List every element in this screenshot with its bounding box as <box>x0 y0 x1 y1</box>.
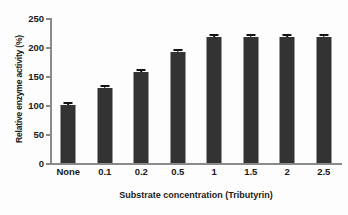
y-tick-mark <box>46 163 50 165</box>
bar <box>170 52 185 163</box>
y-tick-label: 0 <box>18 158 44 169</box>
bar <box>207 37 222 163</box>
bar-group <box>123 18 160 163</box>
error-bar-whisker <box>250 36 252 37</box>
error-bar-cap <box>319 34 328 36</box>
x-axis-title: Substrate concentration (Tributyrin) <box>50 190 342 200</box>
x-tick-label: 0.1 <box>98 166 111 177</box>
y-axis-tick-labels: 050100150200250 <box>18 12 44 169</box>
error-bar-cap <box>210 34 219 36</box>
error-bar-cap <box>64 102 73 104</box>
error-bar-cap <box>137 69 146 71</box>
y-tick-label: 150 <box>18 71 44 82</box>
y-tick-mark <box>46 76 50 78</box>
error-bar-whisker <box>214 36 216 37</box>
x-tick-label: 2 <box>285 166 290 177</box>
x-tick-label: 1 <box>212 166 217 177</box>
error-bar-cap <box>173 49 182 51</box>
x-tick-label: None <box>56 166 80 177</box>
error-bar-whisker <box>104 87 106 88</box>
bars-layer <box>50 18 342 163</box>
error-bar-whisker <box>68 104 70 105</box>
x-tick-label: 2.5 <box>317 166 330 177</box>
y-tick-label: 250 <box>18 13 44 24</box>
y-tick-mark <box>46 18 50 20</box>
bar <box>97 88 112 163</box>
bar-group <box>233 18 270 163</box>
bar-group <box>160 18 197 163</box>
bar-group <box>87 18 124 163</box>
bar <box>134 72 149 163</box>
x-axis-tick-labels: None0.10.20.511.522.5 <box>50 166 342 184</box>
plot-area <box>50 18 342 163</box>
bar-group <box>306 18 343 163</box>
error-bar-whisker <box>177 51 179 52</box>
bar-chart: Relative enzyme activity (%) 05010015020… <box>0 0 348 215</box>
y-tick-label: 50 <box>18 129 44 140</box>
bar-group <box>196 18 233 163</box>
bar-group <box>269 18 306 163</box>
x-tick-label: 0.5 <box>171 166 184 177</box>
bar <box>243 37 258 163</box>
y-tick-mark <box>46 134 50 136</box>
x-tick-label: 0.2 <box>135 166 148 177</box>
y-tick-label: 200 <box>18 42 44 53</box>
error-bar-cap <box>246 34 255 36</box>
error-bar-cap <box>283 34 292 36</box>
y-tick-mark <box>46 47 50 49</box>
error-bar-whisker <box>141 71 143 72</box>
bar <box>316 37 331 163</box>
y-tick-mark <box>46 105 50 107</box>
bar <box>61 105 76 163</box>
error-bar-whisker <box>287 36 289 37</box>
error-bar-cap <box>100 85 109 87</box>
x-axis-line <box>48 163 342 165</box>
error-bar-whisker <box>323 36 325 37</box>
bar-group <box>50 18 87 163</box>
x-tick-label: 1.5 <box>244 166 257 177</box>
y-tick-label: 100 <box>18 100 44 111</box>
bar <box>280 37 295 163</box>
